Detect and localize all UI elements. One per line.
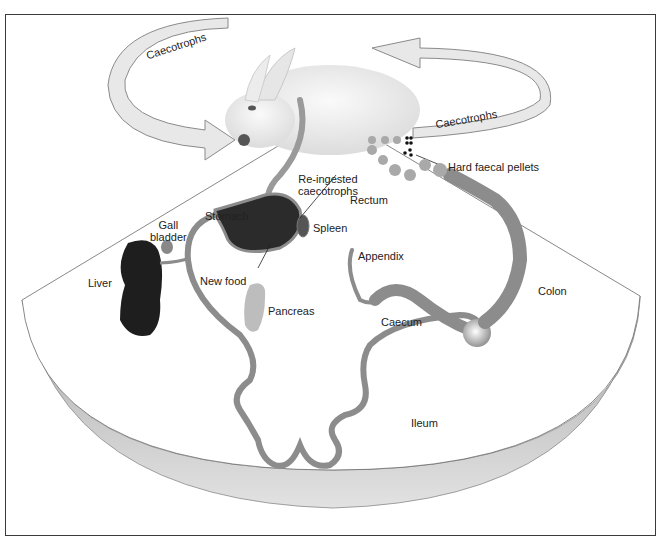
label-appendix: Appendix: [358, 250, 404, 262]
label-colon: Colon: [538, 285, 567, 297]
gall-line2: bladder: [150, 231, 187, 243]
spleen: [297, 215, 309, 237]
re-ingested-line1: Re-ingested: [298, 173, 357, 185]
label-new-food: New food: [200, 275, 246, 287]
label-hard-faecal-pellets: Hard faecal pellets: [448, 161, 539, 173]
caecotrophs-arrow-left: [108, 18, 235, 160]
re-ingested-line2: caecotrophs: [298, 185, 358, 197]
label-stomach: Stomach: [205, 210, 248, 222]
label-re-ingested-caecotrophs: Re-ingested caecotrophs: [298, 173, 358, 197]
label-gall-bladder: Gall bladder: [150, 219, 187, 243]
label-ileum: Ileum: [411, 417, 438, 429]
liver: [120, 240, 162, 336]
rabbit-illustration: [225, 48, 420, 155]
label-pancreas: Pancreas: [268, 305, 314, 317]
label-spleen: Spleen: [313, 222, 347, 234]
food-icon: [238, 134, 250, 146]
label-liver: Liver: [88, 277, 112, 289]
gall-line1: Gall: [159, 219, 179, 231]
label-rectum: Rectum: [350, 194, 388, 206]
faecal-pellets-icon: [403, 136, 413, 157]
label-caecum: Caecum: [381, 316, 422, 328]
